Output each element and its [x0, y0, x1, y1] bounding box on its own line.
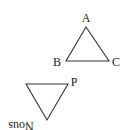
vertex-label-p: P	[71, 75, 78, 89]
vertex-label-b: B	[53, 55, 61, 69]
triangle-abc	[66, 27, 109, 61]
vertex-label-nous-rotated: Nous	[8, 119, 34, 130]
vertex-label-c: C	[112, 55, 120, 69]
triangle-p-inverted	[26, 84, 68, 120]
vertex-label-a: A	[82, 11, 91, 25]
geometry-diagram: A B C P Nous	[0, 0, 127, 130]
